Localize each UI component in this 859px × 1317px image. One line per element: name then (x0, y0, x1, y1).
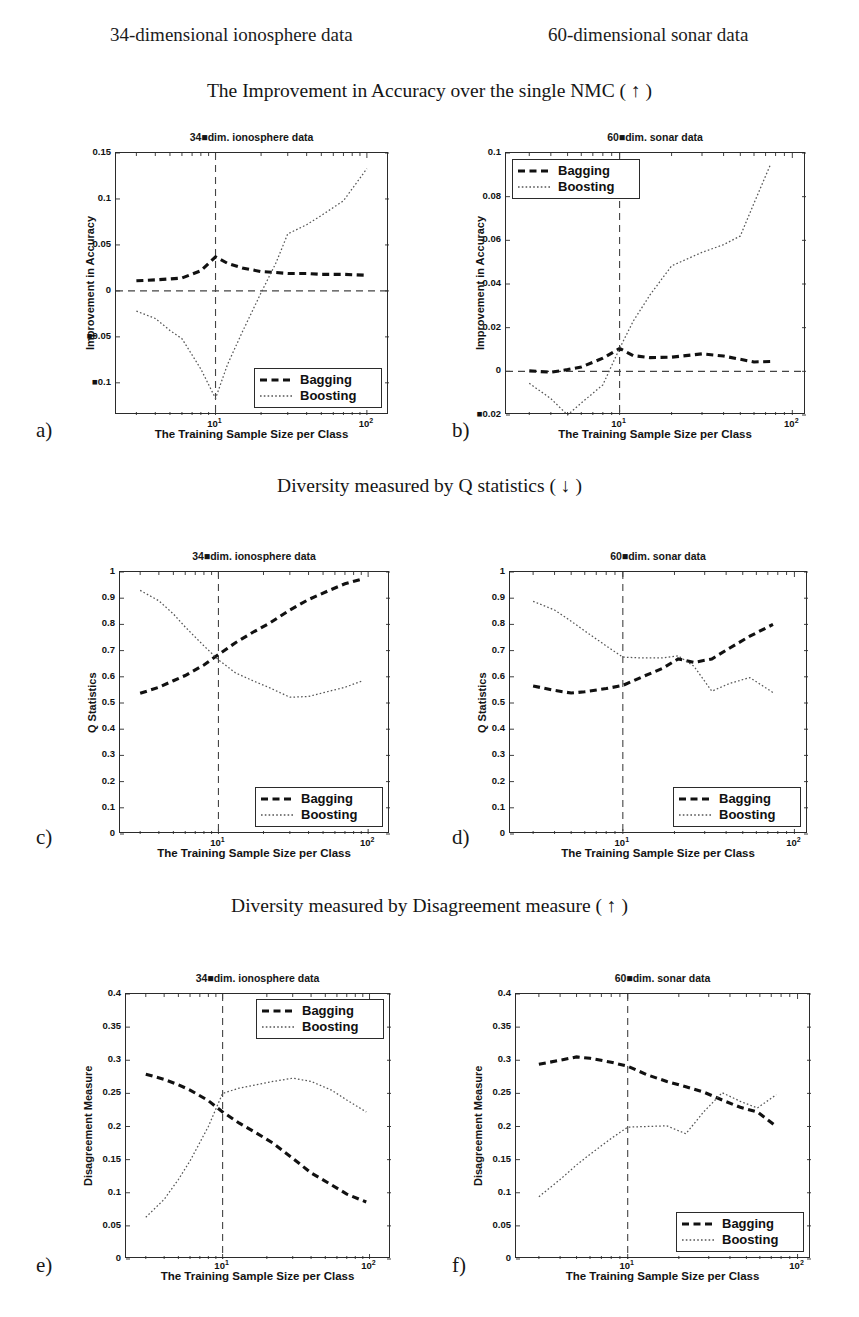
legend-swatch-bagging-icon (678, 794, 712, 804)
legend-item-bagging-a: Bagging (259, 373, 376, 388)
ytick-label-d-0: 1 (463, 565, 505, 576)
ytick-label-f-0: 0.4 (469, 987, 511, 998)
legend-d: BaggingBoosting (673, 787, 801, 827)
series-boosting-a (136, 169, 366, 399)
ytick-label-d-8: 0.2 (463, 775, 505, 786)
figure-page: 34-dimensional ionosphere data 60-dimens… (0, 0, 859, 1317)
ytick-label-e-7: 0.05 (79, 1219, 121, 1230)
ytick-label-c-3: 0.7 (73, 644, 115, 655)
yaxis-label-f: Disagreement Measure (472, 1065, 484, 1185)
plot-title-d: 60■dim. sonar data (509, 550, 807, 562)
ytick-label-d-10: 0 (463, 827, 505, 838)
legend-swatch-bagging-icon (260, 794, 294, 804)
ytick-label-e-1: 0.35 (79, 1020, 121, 1031)
yaxis-label-e: Disagreement Measure (82, 1065, 94, 1185)
legend-swatch-boosting-icon (260, 810, 294, 820)
ytick-label-a-5: ■0.1 (69, 376, 111, 387)
legend-label-bagging-d: Bagging (719, 792, 771, 806)
ytick-label-f-7: 0.05 (469, 1219, 511, 1230)
ytick-label-f-2: 0.3 (469, 1053, 511, 1064)
legend-label-bagging-e: Bagging (302, 1004, 354, 1018)
legend-item-bagging-b: Bagging (517, 164, 634, 179)
xaxis-label-e: The Training Sample Size per Class (125, 1270, 390, 1282)
legend-item-bagging-c: Bagging (260, 792, 377, 807)
series-bagging-f (539, 1057, 776, 1127)
ytick-label-d-2: 0.8 (463, 617, 505, 628)
series-bagging-a (136, 257, 366, 281)
ytick-label-b-1: 0.08 (459, 190, 501, 201)
legend-swatch-boosting-icon (678, 810, 712, 820)
series-boosting-d (533, 601, 773, 692)
xaxis-label-a: The Training Sample Size per Class (115, 428, 388, 440)
ytick-label-c-10: 0 (73, 827, 115, 838)
legend-swatch-boosting-icon (681, 1235, 715, 1245)
plot-title-a: 34■dim. ionosphere data (115, 131, 388, 143)
legend-swatch-boosting-icon (259, 391, 293, 401)
ytick-label-d-7: 0.3 (463, 748, 505, 759)
yaxis-label-a: Improvement in Accuracy (84, 216, 96, 350)
ytick-label-c-7: 0.3 (73, 748, 115, 759)
legend-label-bagging-a: Bagging (300, 373, 352, 387)
legend-a: BaggingBoosting (254, 368, 382, 408)
subplot-f: 60■dim. sonar data0.40.350.30.250.20.150… (430, 880, 859, 1317)
series-bagging-d (533, 624, 773, 693)
ytick-label-c-2: 0.8 (73, 617, 115, 628)
legend-b: BaggingBoosting (512, 159, 640, 199)
series-boosting-e (146, 1078, 366, 1217)
subplot-b: 60■dim. sonar data0.10.080.060.040.020■0… (430, 0, 859, 460)
ytick-label-d-3: 0.7 (463, 644, 505, 655)
legend-item-boosting-b: Boosting (517, 180, 634, 195)
series-boosting-b (529, 164, 770, 415)
ytick-label-e-8: 0 (79, 1252, 121, 1263)
subplot-d: 60■dim. sonar data10.90.80.70.60.50.40.3… (430, 460, 859, 880)
legend-f: BaggingBoosting (676, 1212, 804, 1252)
legend-item-boosting-d: Boosting (678, 808, 795, 823)
ytick-label-e-0: 0.4 (79, 987, 121, 998)
ytick-label-d-9: 0.1 (463, 801, 505, 812)
xaxis-label-d: The Training Sample Size per Class (509, 847, 807, 859)
legend-label-bagging-c: Bagging (301, 792, 353, 806)
legend-swatch-bagging-icon (517, 166, 551, 176)
ytick-label-e-2: 0.3 (79, 1053, 121, 1064)
ytick-label-a-0: 0.15 (69, 146, 111, 157)
legend-item-boosting-e: Boosting (261, 1020, 378, 1035)
legend-swatch-bagging-icon (681, 1219, 715, 1229)
series-bagging-b (529, 348, 770, 372)
legend-label-bagging-f: Bagging (722, 1217, 774, 1231)
plot-title-e: 34■dim. ionosphere data (125, 972, 390, 984)
ytick-label-e-6: 0.1 (79, 1186, 121, 1197)
legend-e: BaggingBoosting (256, 999, 384, 1039)
ytick-label-c-0: 1 (73, 565, 115, 576)
legend-swatch-bagging-icon (259, 375, 293, 385)
plot-title-b: 60■dim. sonar data (505, 131, 805, 143)
legend-item-bagging-e: Bagging (261, 1004, 378, 1019)
ytick-label-c-8: 0.2 (73, 775, 115, 786)
ytick-label-f-8: 0 (469, 1252, 511, 1263)
legend-label-boosting-c: Boosting (301, 808, 357, 822)
yaxis-label-c: Q Statistics (86, 672, 98, 733)
legend-swatch-boosting-icon (517, 182, 551, 192)
legend-label-boosting-a: Boosting (300, 389, 356, 403)
ytick-label-f-1: 0.35 (469, 1020, 511, 1031)
yaxis-label-d: Q Statistics (476, 672, 488, 733)
legend-label-bagging-b: Bagging (558, 164, 610, 178)
legend-label-boosting-b: Boosting (558, 180, 614, 194)
subplot-c: 34■dim. ionosphere data10.90.80.70.60.50… (0, 460, 430, 880)
legend-label-boosting-f: Boosting (722, 1233, 778, 1247)
legend-item-boosting-f: Boosting (681, 1233, 798, 1248)
legend-label-boosting-d: Boosting (719, 808, 775, 822)
legend-item-bagging-d: Bagging (678, 792, 795, 807)
legend-swatch-bagging-icon (261, 1006, 295, 1016)
legend-item-boosting-c: Boosting (260, 808, 377, 823)
legend-item-bagging-f: Bagging (681, 1217, 798, 1232)
yaxis-label-b: Improvement in Accuracy (474, 216, 486, 350)
xaxis-label-f: The Training Sample Size per Class (515, 1270, 810, 1282)
ytick-label-b-0: 0.1 (459, 146, 501, 157)
xaxis-label-c: The Training Sample Size per Class (119, 847, 389, 859)
series-bagging-e (146, 1074, 366, 1202)
legend-swatch-boosting-icon (261, 1022, 295, 1032)
ytick-label-d-1: 0.9 (463, 591, 505, 602)
ytick-label-a-1: 0.1 (69, 192, 111, 203)
legend-item-boosting-a: Boosting (259, 389, 376, 404)
plot-title-f: 60■dim. sonar data (515, 972, 810, 984)
